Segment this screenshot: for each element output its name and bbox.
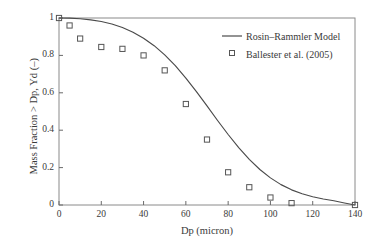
x-tick-label-40: 40 bbox=[139, 210, 149, 220]
data-point-marker bbox=[67, 23, 72, 28]
data-point-marker bbox=[268, 195, 273, 200]
data-point-marker bbox=[162, 68, 167, 73]
data-point-marker bbox=[99, 44, 104, 49]
data-point-marker bbox=[247, 185, 252, 190]
data-point-marker bbox=[141, 53, 146, 58]
data-point-marker bbox=[78, 36, 83, 41]
x-tick-label-120: 120 bbox=[306, 210, 320, 220]
legend-item-rosin-rammler-model: Rosin–Rammler Model bbox=[246, 32, 340, 42]
data-point-marker bbox=[204, 137, 209, 142]
chart-figure: 020406080100120140 00.20.40.60.81 Dp (mi… bbox=[0, 0, 387, 248]
x-tick-label-80: 80 bbox=[223, 210, 233, 220]
data-point-marker bbox=[120, 46, 125, 51]
x-tick-label-100: 100 bbox=[263, 210, 277, 220]
legend-item-ballester-2005: Ballester et al. (2005) bbox=[246, 50, 333, 60]
data-point-marker bbox=[226, 170, 231, 175]
x-tick-label-140: 140 bbox=[348, 210, 362, 220]
x-axis-ticks bbox=[59, 201, 355, 205]
data-point-marker bbox=[183, 101, 188, 106]
y-axis-title: Mass Fraction > Dp, Yd (–) bbox=[29, 16, 40, 216]
x-axis-title: Dp (micron) bbox=[181, 226, 233, 237]
y-axis-ticks bbox=[59, 18, 63, 205]
legend-square-swatch bbox=[230, 51, 235, 56]
x-tick-label-0: 0 bbox=[57, 210, 62, 220]
x-tick-label-20: 20 bbox=[97, 210, 107, 220]
series-markers-ballester-2005 bbox=[56, 15, 357, 207]
x-tick-label-60: 60 bbox=[181, 210, 191, 220]
